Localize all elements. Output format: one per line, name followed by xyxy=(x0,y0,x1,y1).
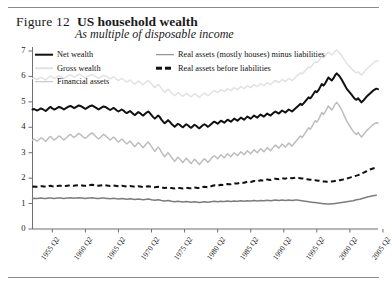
y-axis-tick-label: 6 xyxy=(14,70,26,80)
legend-swatch-icon xyxy=(156,67,174,70)
legend-item: Real assets before liabilities xyxy=(178,64,271,73)
legend-label: Real assets (mostly houses) minus liabil… xyxy=(178,50,325,59)
legend-label: Net wealth xyxy=(57,50,93,59)
legend-item: Real assets (mostly houses) minus liabil… xyxy=(178,50,325,59)
legend-swatch-icon xyxy=(35,81,53,83)
legend-item: Net wealth xyxy=(57,50,93,59)
legend-label: Financial assets xyxy=(57,77,109,86)
chart-series-layer xyxy=(33,50,379,204)
y-axis-tick-label: 2 xyxy=(14,172,26,182)
y-axis-tick-label: 4 xyxy=(14,121,26,131)
legend-swatch-icon xyxy=(35,53,53,56)
legend-item: Gross wealth xyxy=(57,64,101,73)
legend-label: Gross wealth xyxy=(57,64,101,73)
y-axis-tick-label: 0 xyxy=(14,223,26,233)
series-line xyxy=(33,167,377,188)
legend-item: Financial assets xyxy=(57,77,109,86)
y-axis-tick-label: 3 xyxy=(14,147,26,157)
legend-label: Real assets before liabilities xyxy=(178,64,271,73)
series-line xyxy=(33,102,379,164)
y-axis-tick-label: 7 xyxy=(14,45,26,55)
y-axis-tick-label: 5 xyxy=(14,96,26,106)
legend-swatch-icon xyxy=(156,54,174,56)
series-line xyxy=(33,195,377,204)
legend-swatch-icon xyxy=(35,67,53,69)
y-axis-tick-label: 1 xyxy=(14,198,26,208)
